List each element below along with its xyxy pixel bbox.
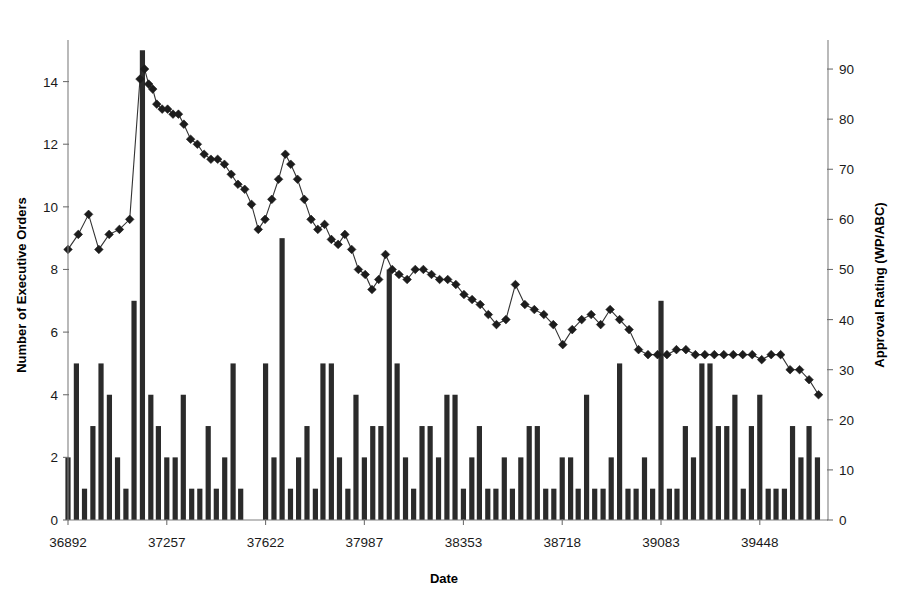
bar-5 [699,363,704,520]
bar-3 [370,426,375,520]
x-axis-tick-label: 39083 [642,535,680,550]
x-axis-tick-label: 39448 [741,535,779,550]
y-axis-left-tick-label: 10 [43,200,58,215]
bar-1 [493,489,498,520]
bar-3 [304,426,309,520]
bar-2 [164,457,169,520]
bar-3 [749,426,754,520]
bar-5 [617,363,622,520]
bar-4 [584,395,589,520]
x-axis-tick-label: 38718 [543,535,581,550]
bar-1 [197,489,202,520]
bar-1 [238,489,243,520]
bar-2 [115,457,120,520]
x-axis-tick-label: 37622 [247,535,285,550]
y-axis-left-tick-label: 4 [50,388,58,403]
x-axis-tick-label: 38353 [445,535,483,550]
bar-1 [288,489,293,520]
bar-2 [469,457,474,520]
bar-9 [279,238,284,520]
bar-4 [732,395,737,520]
chart-figure: 0246810121401020304050607080903689237257… [0,0,912,610]
bar-2 [560,457,565,520]
bar-2 [271,457,276,520]
bar-1 [576,489,581,520]
y-axis-right-tick-label: 60 [839,212,854,227]
bar-1 [592,489,597,520]
bar-5 [320,363,325,520]
bar-2 [691,457,696,520]
bar-3 [806,426,811,520]
bar-3 [428,426,433,520]
bar-1 [313,489,318,520]
bar-2 [518,457,523,520]
bar-3 [156,426,161,520]
bar-3 [724,426,729,520]
bar-3 [790,426,795,520]
y-axis-left-tick-label: 8 [50,262,58,277]
bar-1 [551,489,556,520]
bar-5 [707,363,712,520]
x-axis-tick-label: 36892 [49,535,87,550]
bar-1 [543,489,548,520]
dual-axis-chart: 0246810121401020304050607080903689237257… [0,0,912,610]
bar-1 [189,489,194,520]
bar-1 [82,489,87,520]
bar-2 [815,457,820,520]
y-axis-left-tick-label: 0 [50,513,58,528]
y-axis-left-tick-label: 12 [43,137,58,152]
bar-3 [90,426,95,520]
bar-4 [107,395,112,520]
bar-2 [337,457,342,520]
bar-7 [131,301,136,520]
y-axis-right-tick-label: 40 [839,313,854,328]
bar-1 [773,489,778,520]
bar-15 [140,50,145,520]
bar-2 [403,457,408,520]
bar-2 [609,457,614,520]
bar-5 [329,363,334,520]
bar-1 [674,489,679,520]
bar-2 [436,457,441,520]
y-axis-left-tick-label: 2 [50,450,58,465]
y-axis-left-title: Number of Executive Orders [14,197,29,373]
y-axis-right-tick-label: 10 [839,463,854,478]
bar-1 [461,489,466,520]
bar-2 [798,457,803,520]
y-axis-right-tick-label: 0 [839,513,847,528]
bar-1 [411,489,416,520]
bar-4 [452,395,457,520]
bar-3 [527,426,532,520]
bar-1 [600,489,605,520]
bar-1 [766,489,771,520]
bar-5 [74,363,79,520]
bar-1 [510,489,515,520]
bar-1 [123,489,128,520]
bar-1 [485,489,490,520]
y-axis-right-tick-label: 70 [839,162,854,177]
bar-3 [477,426,482,520]
y-axis-left-tick-label: 6 [50,325,58,340]
bar-3 [206,426,211,520]
bar-2 [296,457,301,520]
bar-2 [362,457,367,520]
bar-8 [387,269,392,520]
bar-4 [148,395,153,520]
bar-1 [741,489,746,520]
bar-3 [419,426,424,520]
bar-2 [173,457,178,520]
bar-3 [378,426,383,520]
x-axis-title: Date [430,571,458,586]
bar-4 [353,395,358,520]
y-axis-right-title: Approval Rating (WP/ABC) [872,202,887,367]
x-axis-tick-label: 37987 [346,535,384,550]
bar-3 [716,426,721,520]
bar-2 [502,457,507,520]
y-axis-right-tick-label: 80 [839,112,854,127]
bar-2 [222,457,227,520]
bar-2 [568,457,573,520]
bar-1 [214,489,219,520]
bar-1 [650,489,655,520]
bar-4 [181,395,186,520]
y-axis-left-tick-label: 14 [43,75,59,90]
